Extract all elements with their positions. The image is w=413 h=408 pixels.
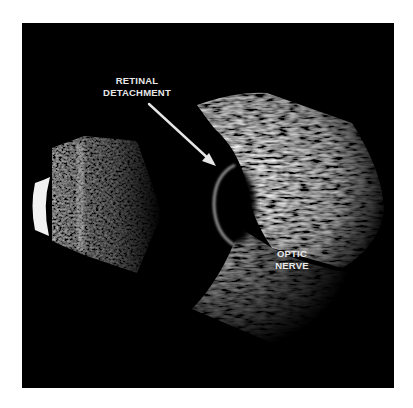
optic-nerve-label: OPTIC NERVE — [262, 248, 322, 272]
cornea-echo — [33, 177, 51, 236]
ultrasound-image — [22, 23, 394, 388]
anterior-segment — [52, 136, 162, 273]
ultrasound-panel: RETINAL DETACHMENT OPTIC NERVE — [22, 23, 394, 388]
optic-nerve-label-line-2: NERVE — [262, 260, 322, 272]
retinal-detachment-label: RETINAL DETACHMENT — [92, 75, 182, 99]
retinal-detachment-label-line-1: RETINAL — [92, 75, 182, 87]
optic-nerve-label-line-1: OPTIC — [262, 248, 322, 260]
retinal-detachment-label-line-2: DETACHMENT — [92, 87, 182, 99]
